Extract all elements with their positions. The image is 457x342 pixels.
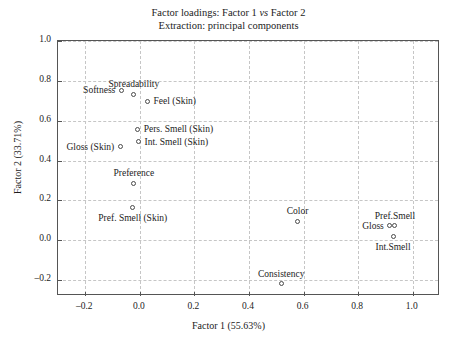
x-tick-label: 0.2 [173, 301, 213, 311]
x-tick-mark [358, 292, 359, 296]
gridline-horizontal [58, 161, 438, 162]
x-tick-label: 0.0 [119, 301, 159, 311]
data-point-label: Color [287, 206, 309, 216]
gridline-vertical [194, 41, 195, 294]
y-tick-mark [58, 121, 62, 122]
factor-loadings-chart: Factor loadings: Factor 1 vs Factor 2 Ex… [0, 0, 457, 342]
y-tick-label: 0.8 [17, 74, 51, 84]
x-axis-title: Factor 1 (55.63%) [0, 320, 457, 331]
data-point-marker [118, 144, 123, 149]
y-tick-mark [58, 161, 62, 162]
chart-title-prefix: Factor loadings: Factor 1 [152, 7, 260, 18]
x-tick-mark [85, 292, 86, 296]
data-point-label: Gloss [362, 221, 384, 231]
data-point-label: Gloss (Skin) [66, 142, 114, 152]
x-tick-mark [413, 292, 414, 296]
x-tick-label: 1.0 [392, 301, 432, 311]
y-tick-label: 0.0 [17, 233, 51, 243]
data-point-marker [392, 223, 397, 228]
data-point-label: Pref. Smell (Skin) [98, 213, 167, 223]
x-tick-mark [140, 292, 141, 296]
y-tick-mark [58, 81, 62, 82]
x-tick-mark [249, 292, 250, 296]
y-tick-label: –0.2 [17, 273, 51, 283]
gridline-horizontal [58, 121, 438, 122]
x-tick-label: –0.2 [64, 301, 104, 311]
data-point-label: Int. Smell (Skin) [144, 137, 208, 147]
x-tick-label: 0.8 [337, 301, 377, 311]
gridline-horizontal [58, 200, 438, 201]
gridline-vertical [304, 41, 305, 294]
y-tick-label: 0.4 [17, 154, 51, 164]
data-point-label: Pers. Smell (Skin) [144, 124, 213, 134]
gridline-vertical [413, 41, 414, 294]
y-tick-label: 0.6 [17, 114, 51, 124]
x-tick-label: 0.6 [283, 301, 323, 311]
gridline-horizontal [58, 41, 438, 42]
plot-area: SoftnessSpreadabilityFeel (Skin)Pers. Sm… [57, 40, 439, 295]
chart-title-vs: vs [259, 7, 268, 18]
data-point-marker [295, 219, 300, 224]
data-point-marker [131, 181, 136, 186]
gridline-vertical [358, 41, 359, 294]
data-point-marker [145, 99, 150, 104]
gridline-horizontal [58, 280, 438, 281]
data-point-label: Preference [114, 168, 155, 178]
data-point-marker [130, 205, 135, 210]
chart-title: Factor loadings: Factor 1 vs Factor 2 [0, 6, 457, 19]
data-point-marker [391, 234, 396, 239]
y-tick-mark [58, 41, 62, 42]
chart-title-suffix: Factor 2 [268, 7, 305, 18]
y-tick-label: 0.2 [17, 193, 51, 203]
y-tick-mark [58, 200, 62, 201]
y-tick-mark [58, 280, 62, 281]
data-point-label: Pref.Smell [375, 211, 415, 221]
y-tick-mark [58, 240, 62, 241]
data-point-marker [279, 281, 284, 286]
data-point-marker [131, 92, 136, 97]
chart-subtitle: Extraction: principal components [0, 19, 457, 32]
data-point-label: Feel (Skin) [153, 96, 195, 106]
gridline-vertical [249, 41, 250, 294]
x-tick-mark [304, 292, 305, 296]
data-point-label: Int.Smell [376, 242, 411, 252]
gridline-vertical [85, 41, 86, 294]
y-tick-label: 1.0 [17, 34, 51, 44]
x-tick-mark [194, 292, 195, 296]
data-point-label: Spreadability [109, 79, 160, 89]
x-tick-label: 0.4 [228, 301, 268, 311]
chart-title-block: Factor loadings: Factor 1 vs Factor 2 Ex… [0, 6, 457, 32]
data-point-label: Consistency [258, 269, 304, 279]
